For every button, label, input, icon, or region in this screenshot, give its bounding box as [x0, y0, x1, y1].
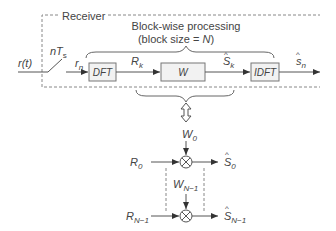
bottom-brace [136, 90, 234, 102]
rk-label: Rk [131, 55, 144, 70]
top-brace [86, 46, 274, 58]
svg-text:^: ^ [225, 150, 229, 159]
multiplier-0-icon [180, 156, 192, 168]
multiplier-n1-icon [180, 210, 192, 222]
processing-subtitle: (block size = N) [138, 33, 214, 45]
svg-text:r(t): r(t) [18, 57, 32, 69]
svg-text:IDFT: IDFT [254, 67, 277, 78]
svg-text:W: W [178, 67, 189, 78]
w-block: W [161, 63, 205, 81]
svg-text:^: ^ [296, 50, 300, 59]
processing-title: Block-wise processing [132, 20, 241, 32]
w0-label: W0 [182, 128, 197, 143]
wn1-label: WN−1 [173, 178, 198, 193]
svg-text:^: ^ [224, 50, 228, 59]
svg-text:DFT: DFT [93, 67, 113, 78]
sampled-signal-label: rn [75, 57, 84, 72]
rn1-label: RN−1 [126, 210, 149, 225]
expand-double-arrow-icon [181, 103, 191, 122]
sampler-switch [48, 59, 62, 72]
receiver-diagram: Receiver Block-wise processing (block si… [0, 0, 336, 231]
receiver-label: Receiver [62, 10, 106, 22]
svg-text:^: ^ [225, 204, 229, 213]
sampler-label: nTs [50, 45, 67, 60]
r0-label: R0 [130, 156, 143, 171]
idft-block: IDFT [251, 63, 279, 81]
dft-block: DFT [89, 63, 116, 81]
